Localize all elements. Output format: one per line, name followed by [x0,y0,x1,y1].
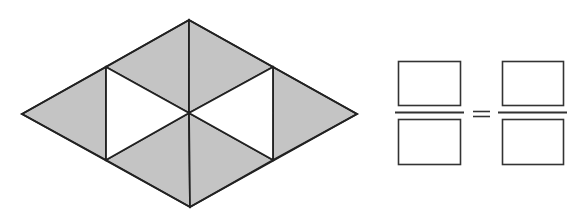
rhombus-shape [22,20,357,207]
left-denominator-box[interactable] [399,120,461,165]
equals-sign [473,112,490,117]
left-fraction [395,62,464,165]
far-right-triangle [273,67,357,160]
far-left-triangle [22,67,106,160]
left-numerator-box[interactable] [399,62,461,106]
right-fraction [498,62,567,165]
right-numerator-box[interactable] [503,62,564,106]
fraction-diagram [0,0,582,214]
right-denominator-box[interactable] [503,120,564,165]
